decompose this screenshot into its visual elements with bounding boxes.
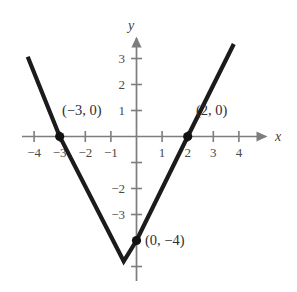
y-tick-label-1: 1 [119, 103, 126, 118]
x-tick-label--2: −2 [78, 145, 92, 160]
x-tick-label--1: −1 [104, 145, 118, 160]
point-label-x-intercept-right: (2, 0) [196, 102, 228, 119]
figure-canvas: −4 −3 −2 −1 1 2 3 4 3 2 1 −2 −3 x y (−3,… [0, 0, 297, 292]
point-marker-y-intercept [132, 236, 141, 245]
x-tick-label--4: −4 [27, 145, 41, 160]
y-tick-label-2: 2 [119, 77, 126, 92]
point-marker-x-intercept-left [55, 132, 64, 141]
x-tick-label-1: 1 [159, 145, 166, 160]
x-tick-label-2: 2 [184, 145, 191, 160]
point-marker-x-intercept-right [183, 132, 192, 141]
y-tick-label-3: 3 [119, 51, 126, 66]
point-label-y-intercept: (0, −4) [145, 232, 185, 249]
x-tick-label-3: 3 [210, 145, 217, 160]
x-axis-label: x [274, 129, 282, 144]
absolute-value-graph-plot: −4 −3 −2 −1 1 2 3 4 3 2 1 −2 −3 x y (−3,… [0, 0, 297, 292]
point-label-x-intercept-left: (−3, 0) [62, 102, 102, 119]
x-tick-label-4: 4 [236, 145, 243, 160]
y-tick-label--2: −2 [111, 181, 125, 196]
y-axis-label: y [126, 18, 135, 33]
y-tick-label--3: −3 [111, 207, 125, 222]
x-tick-labels: −4 −3 −2 −1 1 2 3 4 [27, 145, 242, 160]
